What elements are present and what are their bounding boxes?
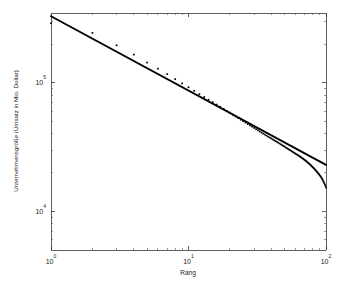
x-tick-labels-group: 100101102	[46, 253, 332, 265]
data-point	[133, 54, 135, 56]
data-point	[92, 32, 94, 34]
chart-figure: 100101102 105104 Rang Unternehmensgröße …	[0, 0, 357, 292]
data-point	[255, 128, 257, 130]
rank-size-log-log-plot: 100101102 105104 Rang Unternehmensgröße …	[0, 0, 357, 292]
data-point	[270, 138, 272, 140]
data-point	[264, 134, 266, 136]
x-tick-label: 102	[321, 253, 332, 265]
x-tick-label: 100	[46, 253, 57, 265]
y-tick-label: 104	[35, 203, 46, 215]
data-point	[181, 83, 183, 85]
data-point	[203, 96, 205, 98]
data-point	[193, 90, 195, 92]
x-axis-title: Rang	[180, 269, 196, 277]
data-point	[199, 93, 201, 95]
x-axis-ticks	[51, 13, 326, 250]
data-point	[267, 136, 269, 138]
data-point	[188, 86, 190, 88]
y-axis-title: Unternehmensgröße (Umsatz in Mio. Dollar…	[12, 70, 19, 191]
data-point	[269, 137, 271, 139]
data-point	[261, 132, 263, 134]
data-point	[325, 185, 327, 187]
data-point	[146, 62, 148, 64]
scatter-points-group	[50, 22, 327, 188]
data-point	[257, 130, 259, 132]
data-point	[174, 78, 176, 80]
data-point	[259, 131, 261, 133]
y-tick-label: 105	[35, 74, 46, 86]
data-point	[266, 135, 268, 137]
data-point	[325, 187, 327, 189]
data-point	[166, 73, 168, 75]
axes-spines	[51, 13, 326, 250]
y-tick-labels-group: 105104	[35, 74, 46, 214]
data-point	[157, 68, 159, 70]
power-law-fit-line	[51, 16, 326, 165]
data-point	[50, 22, 52, 24]
y-axis-ticks	[51, 22, 326, 250]
x-tick-label: 101	[183, 253, 194, 265]
fit-line-group	[51, 16, 326, 165]
data-point	[262, 133, 264, 135]
data-point	[116, 44, 118, 46]
